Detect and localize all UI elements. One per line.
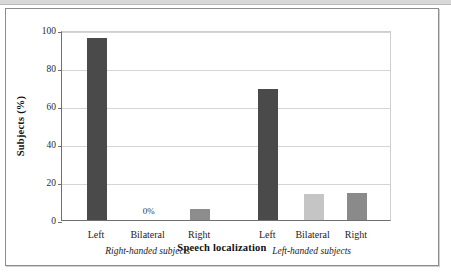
x-category-label-bilateral: Bilateral [130, 230, 164, 240]
y-tick-mark-80 [58, 70, 62, 71]
x-axis-title: Speech localization [6, 242, 438, 253]
x-group-label-left-handed-subjects: Left-handed subjects [272, 247, 351, 257]
y-tick-mark-100 [58, 32, 62, 33]
bar-value-label-bilateral: 0% [143, 206, 155, 216]
gridline-100 [62, 32, 390, 33]
y-tick-label-100: 100 [42, 27, 56, 37]
bar-left-handed-subjects-bilateral [304, 194, 324, 220]
plot-area: 0204060801000% [61, 31, 391, 221]
x-category-label-left: Left [259, 230, 276, 240]
y-tick-label-40: 40 [47, 141, 57, 151]
bar-left-handed-subjects-right [347, 193, 367, 220]
gridline-20 [62, 184, 390, 185]
x-group-label-right-handed-subjects: Right-handed subjects [105, 247, 190, 257]
page-top-strip [0, 0, 451, 5]
gridline-80 [62, 70, 390, 71]
y-tick-label-80: 80 [47, 65, 57, 75]
gridline-40 [62, 146, 390, 147]
bar-right-handed-subjects-right [190, 209, 210, 220]
figure-frame: Subjects (%) 0204060801000% Speech local… [5, 8, 439, 266]
x-category-label-right: Right [345, 230, 367, 240]
x-category-label-left: Left [88, 230, 105, 240]
y-tick-mark-0 [58, 222, 62, 223]
bar-left-handed-subjects-left [258, 89, 278, 220]
y-tick-mark-60 [58, 108, 62, 109]
y-tick-mark-20 [58, 184, 62, 185]
bar-right-handed-subjects-left [87, 38, 107, 220]
y-tick-label-20: 20 [47, 179, 57, 189]
figure-canvas: Subjects (%) 0204060801000% Speech local… [0, 0, 451, 276]
y-tick-label-60: 60 [47, 103, 57, 113]
gridline-60 [62, 108, 390, 109]
x-category-label-bilateral: Bilateral [295, 230, 329, 240]
y-tick-mark-40 [58, 146, 62, 147]
y-tick-label-0: 0 [51, 217, 56, 227]
y-axis-title: Subjects (%) [15, 96, 26, 156]
x-category-label-right: Right [188, 230, 210, 240]
